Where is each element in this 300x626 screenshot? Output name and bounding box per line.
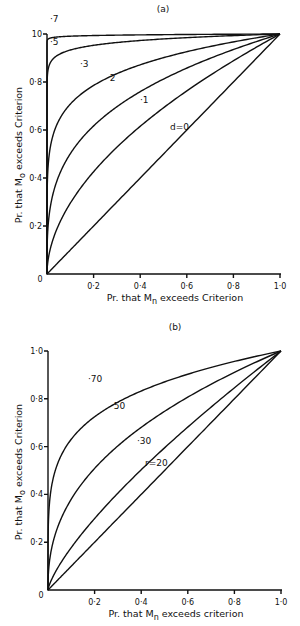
ytick: 0·8 xyxy=(29,78,42,87)
curve-label: ·2 xyxy=(107,73,116,83)
panel-a-xlabel: Pr. that Mn exceeds Criterion xyxy=(107,292,243,306)
ytick: 0·8 xyxy=(30,395,43,404)
xtick: 0·8 xyxy=(228,598,241,607)
xtick: 0·4 xyxy=(135,598,148,607)
xtick: 1·0 xyxy=(275,598,288,607)
ytick: 10 xyxy=(32,30,42,39)
panel-b-ylabel: Pr. that Mo exceeds Criterion xyxy=(13,404,27,540)
panel-b-title: (b) xyxy=(169,322,182,332)
panel-b: (b) 1·0 0·8 0·6 0·4 0·2 0 0·2 0·4 0·6 0·… xyxy=(13,322,287,622)
curve-label: d=0 xyxy=(170,122,189,132)
xtick: 0·4 xyxy=(134,282,147,291)
panel-a: (a) 10 0·8 0·6 0·4 0·2 0 0·2 0·4 0·6 0·8… xyxy=(13,4,286,306)
ytick: 0·6 xyxy=(29,126,42,135)
ytick: 0·6 xyxy=(30,443,43,452)
xtick: 0·6 xyxy=(180,282,193,291)
curve-label: ·1 xyxy=(140,95,149,105)
panel-b-xlabel: Pr. that Mn exceeds criterion xyxy=(108,608,243,622)
origin-tick: 0 xyxy=(37,275,42,284)
panel-a-ylabel: Pr. that Mo exceeds Criterion xyxy=(13,87,27,223)
origin-tick: 0 xyxy=(38,591,43,600)
panel-a-title: (a) xyxy=(157,4,170,14)
panel-a-curves xyxy=(47,34,280,274)
curve-label: ·5 xyxy=(50,37,59,47)
xtick: 0·6 xyxy=(181,598,194,607)
xtick: 0·8 xyxy=(227,282,240,291)
ytick: 1·0 xyxy=(30,347,43,356)
xtick: 0·2 xyxy=(88,598,101,607)
curve-d=0 xyxy=(47,34,280,274)
curve-label: ·30 xyxy=(137,436,152,446)
ytick: 0·2 xyxy=(29,222,42,231)
curve-label: ·7 xyxy=(50,14,59,24)
curve-r=20 xyxy=(48,351,281,590)
figure: (a) 10 0·8 0·6 0·4 0·2 0 0·2 0·4 0·6 0·8… xyxy=(0,0,300,626)
ytick: 0·4 xyxy=(30,490,43,499)
curve-label: r=20 xyxy=(145,458,168,468)
ytick: 0·2 xyxy=(30,538,43,547)
curve-label: ·70 xyxy=(88,374,103,384)
xtick: 1·0 xyxy=(274,282,287,291)
ytick: 0·4 xyxy=(29,174,42,183)
xtick: 0·2 xyxy=(87,282,100,291)
panel-b-curves xyxy=(48,351,281,590)
curve-label: ·3 xyxy=(80,59,89,69)
curve-label: ·50 xyxy=(111,401,126,411)
